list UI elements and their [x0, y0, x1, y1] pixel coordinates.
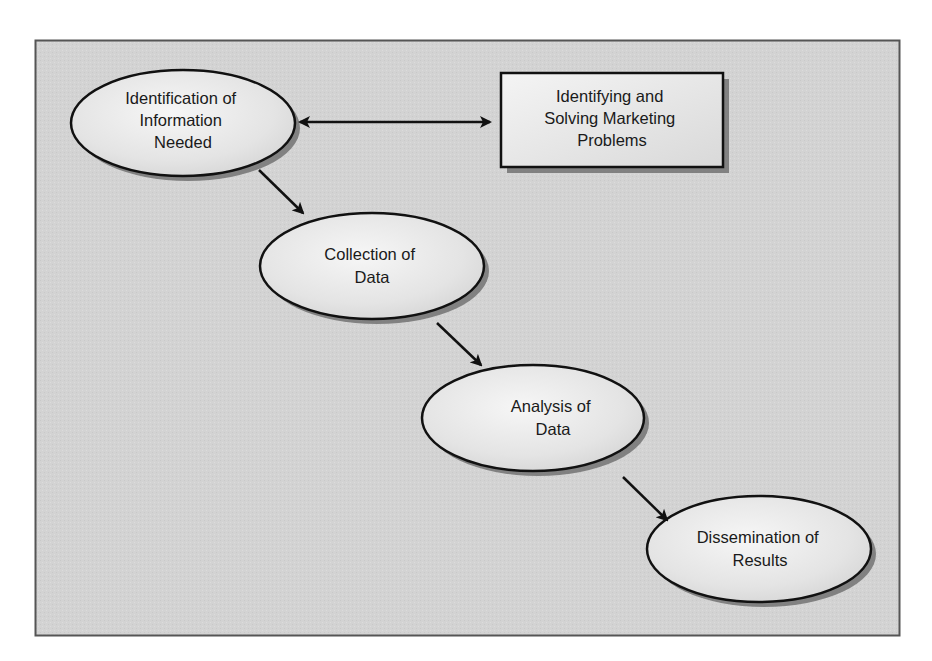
node-label-line: Identification of: [125, 89, 236, 107]
node-label-line: Data: [355, 268, 391, 286]
node-label-line: Collection of: [324, 245, 415, 263]
node-label-line: Identifying and: [556, 87, 663, 105]
node-identifying-and-solving-marketing-problems: Identifying and Solving Marketing Proble…: [501, 73, 729, 173]
node-label-line: Dissemination of: [697, 528, 819, 546]
node-label-line: Data: [536, 420, 572, 438]
flowchart-diagram: Identification of Information Needed Ide…: [0, 0, 932, 661]
node-label-line: Analysis of: [511, 397, 591, 415]
node-label-line: Results: [732, 551, 787, 569]
node-label-line: Information: [139, 111, 222, 129]
node-label-line: Problems: [577, 131, 647, 149]
node-label-line: Needed: [154, 133, 212, 151]
node-label-line: Solving Marketing: [544, 109, 675, 127]
